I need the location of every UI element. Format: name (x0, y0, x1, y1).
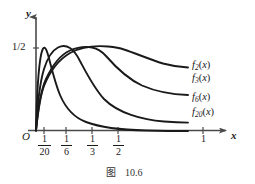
legend-arg: (x) (199, 72, 211, 83)
x-tick-label-1-20: 1 20 (38, 134, 51, 157)
legend-arg: (x) (202, 106, 214, 117)
figure-caption: 图10.6 (106, 164, 143, 179)
legend-arg: (x) (199, 91, 211, 102)
x-tick-label-1: 1 (201, 134, 206, 144)
figure-container: y x O 1/2 1 20 1 6 1 3 1 2 1 f2(x) f3(x)… (0, 0, 255, 184)
y-axis-label: y (26, 8, 31, 19)
x-tick-label-1-3: 1 3 (87, 134, 98, 157)
x-tick-numerator: 1 (61, 134, 72, 145)
legend-label-f6: f6(x) (192, 92, 210, 103)
x-tick-numerator: 1 (87, 134, 98, 145)
x-tick-denominator: 2 (113, 147, 124, 158)
x-tick-label-1-6: 1 6 (61, 134, 72, 157)
legend-label-f3: f3(x) (192, 73, 210, 84)
x-tick-numerator: 1 (38, 134, 51, 145)
x-tick-denominator: 3 (87, 147, 98, 158)
caption-number: 10.6 (125, 167, 143, 178)
legend-label-f2: f2(x) (192, 60, 210, 71)
legend-label-f20: f20(x) (192, 107, 214, 118)
legend-arg: (x) (199, 59, 211, 70)
y-tick-label-half: 1/2 (12, 42, 25, 53)
x-axis-label: x (231, 130, 237, 141)
curve-f20 (36, 48, 188, 131)
x-tick-denominator: 20 (38, 147, 51, 158)
origin-label: O (22, 131, 30, 142)
x-tick-denominator: 6 (61, 147, 72, 158)
caption-prefix: 图 (106, 167, 116, 178)
x-tick-label-1-2: 1 2 (113, 134, 124, 157)
x-tick-numerator: 1 (113, 134, 124, 145)
